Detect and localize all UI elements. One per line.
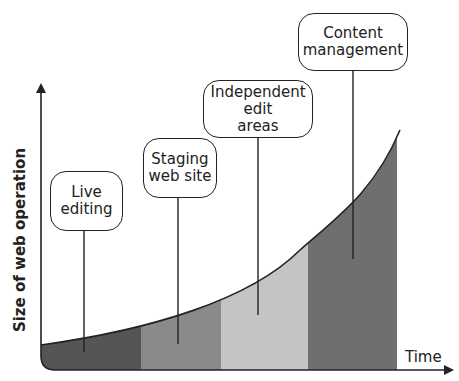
band-live-editing bbox=[41, 100, 141, 380]
callout-content-management: Content management bbox=[298, 13, 408, 71]
stage-bands bbox=[41, 100, 397, 380]
y-axis-arrow-icon bbox=[36, 83, 46, 93]
callout-live-editing: Live editing bbox=[50, 171, 123, 231]
x-axis-arrow-icon bbox=[444, 365, 454, 375]
y-axis-label: Size of web operation bbox=[11, 148, 29, 332]
band-independent bbox=[221, 100, 308, 380]
callout-staging-web-site: Staging web site bbox=[143, 138, 217, 198]
x-axis-label: Time bbox=[405, 348, 442, 366]
callout-independent-edit-areas: Independent edit areas bbox=[203, 80, 313, 138]
